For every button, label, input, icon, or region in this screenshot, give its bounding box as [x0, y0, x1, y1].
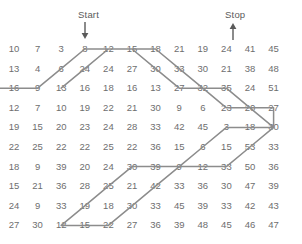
grid-cell: 22 [121, 141, 143, 153]
grid-cell: 22 [74, 141, 96, 153]
grid-cell: 45 [168, 200, 190, 212]
grid-cell: 24 [215, 43, 237, 55]
grid-cell: 21 [168, 43, 190, 55]
grid-cell: 24 [74, 63, 96, 75]
grid-cell: 35 [215, 82, 237, 94]
grid-cell: 6 [192, 141, 214, 153]
grid-cell: 6 [192, 102, 214, 114]
grid-cell: 9 [27, 161, 49, 173]
grid-cell: 28 [74, 180, 96, 192]
grid-cell: 38 [239, 63, 261, 75]
grid-cell: 19 [74, 102, 96, 114]
grid-cell: 25 [27, 141, 49, 153]
grid-cell: 3 [215, 121, 237, 133]
grid-cell: 8 [74, 43, 96, 55]
puzzle-canvas: Start Stop 10738121518211924414513462424… [0, 0, 302, 244]
grid-cell: 25 [97, 180, 119, 192]
grid-cell: 30 [192, 63, 214, 75]
grid-cell: 23 [215, 102, 237, 114]
grid-cell: 30 [263, 121, 285, 133]
grid-cell: 20 [50, 121, 72, 133]
start-label: Start [78, 9, 99, 20]
grid-cell: 7 [27, 102, 49, 114]
grid-cell: 27 [263, 102, 285, 114]
grid-cell: 33 [168, 63, 190, 75]
grid-cell: 36 [145, 141, 167, 153]
grid-cell: 45 [192, 121, 214, 133]
grid-cell: 9 [27, 200, 49, 212]
grid-cell: 18 [239, 121, 261, 133]
grid-cell: 24 [97, 121, 119, 133]
grid-cell: 33 [50, 200, 72, 212]
grid-cell: 45 [263, 43, 285, 55]
grid-cell: 18 [3, 161, 25, 173]
grid-cell: 27 [121, 219, 143, 231]
grid-cell: 24 [97, 63, 119, 75]
grid-cell: 7 [27, 43, 49, 55]
grid-cell: 9 [168, 102, 190, 114]
grid-cell: 16 [121, 82, 143, 94]
grid-cell: 28 [121, 121, 143, 133]
grid-cell: 42 [239, 200, 261, 212]
grid-cell: 39 [50, 161, 72, 173]
grid-cell: 30 [145, 102, 167, 114]
grid-cell: 36 [50, 180, 72, 192]
grid-cell: 6 [50, 63, 72, 75]
arrow-up-icon [227, 22, 239, 40]
grid-cell: 27 [168, 82, 190, 94]
grid-cell: 48 [192, 219, 214, 231]
grid-cell: 24 [97, 161, 119, 173]
grid-cell: 22 [97, 219, 119, 231]
grid-cell: 22 [50, 141, 72, 153]
grid-cell: 20 [74, 161, 96, 173]
grid-cell: 30 [121, 161, 143, 173]
grid-cell: 15 [121, 43, 143, 55]
grid-cell: 10 [3, 43, 25, 55]
grid-cell: 15 [74, 219, 96, 231]
grid-cell: 30 [121, 200, 143, 212]
grid-cell: 12 [192, 161, 214, 173]
grid-cell: 15 [3, 180, 25, 192]
grid-cell: 36 [263, 161, 285, 173]
grid-cell: 23 [74, 121, 96, 133]
grid-cell: 39 [263, 180, 285, 192]
grid-cell: 10 [50, 102, 72, 114]
grid-cell: 46 [239, 219, 261, 231]
grid-cell: 39 [145, 161, 167, 173]
grid-cell: 20 [239, 102, 261, 114]
grid-cell: 19 [3, 121, 25, 133]
grid-cell: 13 [50, 82, 72, 94]
grid-cell: 12 [3, 102, 25, 114]
grid-cell: 15 [168, 141, 190, 153]
grid-cell: 9 [168, 161, 190, 173]
grid-cell: 19 [192, 43, 214, 55]
grid-cell: 21 [215, 63, 237, 75]
grid-cell: 4 [27, 63, 49, 75]
grid-cell: 33 [215, 200, 237, 212]
grid-cell: 36 [192, 180, 214, 192]
grid-cell: 41 [239, 43, 261, 55]
grid-cell: 25 [97, 141, 119, 153]
grid-cell: 30 [145, 63, 167, 75]
grid-cell: 21 [27, 180, 49, 192]
grid-cell: 39 [168, 219, 190, 231]
grid-cell: 33 [168, 180, 190, 192]
grid-cell: 19 [74, 200, 96, 212]
grid-cell: 30 [27, 219, 49, 231]
stop-label: Stop [225, 9, 245, 20]
grid-cell: 12 [97, 43, 119, 55]
grid-cell: 32 [192, 82, 214, 94]
grid-cell: 21 [121, 102, 143, 114]
grid-cell: 24 [3, 200, 25, 212]
grid-cell: 50 [239, 161, 261, 173]
grid-cell: 16 [74, 82, 96, 94]
grid-cell: 27 [3, 219, 25, 231]
grid-cell: 42 [168, 121, 190, 133]
grid-cell: 51 [263, 82, 285, 94]
grid-cell: 30 [215, 180, 237, 192]
grid-cell: 22 [3, 141, 25, 153]
grid-cell: 22 [97, 102, 119, 114]
grid-cell: 33 [145, 200, 167, 212]
grid-cell: 53 [239, 141, 261, 153]
grid-cell: 47 [239, 180, 261, 192]
